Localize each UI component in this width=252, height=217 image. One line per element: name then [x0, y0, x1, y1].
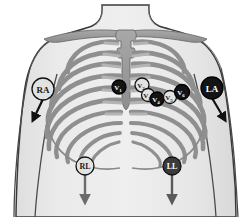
- precordial-electrode-v1-circle[interactable]: [112, 80, 126, 94]
- precordial-electrode-v4[interactable]: V4: [150, 92, 164, 106]
- left-arm-electrode-circle[interactable]: [201, 77, 223, 99]
- precordial-electrode-v6[interactable]: V6: [175, 85, 190, 100]
- ecg-electrode-placement-diagram: V1V2V3V4V5V6 RALARLLL: [0, 0, 252, 217]
- left-leg-electrode[interactable]: LL: [163, 157, 181, 175]
- right-leg-electrode-circle[interactable]: [76, 157, 94, 175]
- left-leg-electrode-circle[interactable]: [163, 157, 181, 175]
- diagram-canvas: V1V2V3V4V5V6 RALARLLL: [0, 0, 252, 217]
- right-arm-electrode[interactable]: RA: [32, 78, 54, 100]
- precordial-electrode-v4-circle[interactable]: [150, 92, 164, 106]
- right-arm-electrode-circle[interactable]: [32, 78, 54, 100]
- left-arm-electrode[interactable]: LA: [201, 77, 223, 99]
- right-leg-electrode[interactable]: RL: [76, 157, 94, 175]
- precordial-electrode-v1[interactable]: V1: [112, 80, 126, 94]
- precordial-electrode-v6-circle[interactable]: [175, 85, 190, 100]
